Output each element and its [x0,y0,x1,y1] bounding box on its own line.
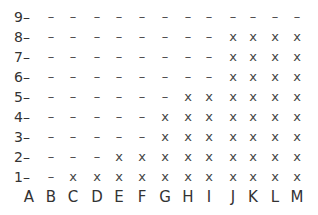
cell-dash-mark: – [155,69,175,85]
symbol-grid-chart: 9–––––––––––––8–––––––––xxxx7–––––––––xx… [0,0,318,215]
x-tick-label: B [40,188,62,206]
cell-x-mark: x [243,29,263,45]
cell-dash-mark: – [199,49,219,65]
cell-x-mark: x [287,29,307,45]
cell-dash-mark: – [63,89,83,105]
cell-x-mark: x [265,129,285,145]
cell-x-mark: x [243,109,263,125]
cell-x-mark: x [287,89,307,105]
cell-dash-mark: – [63,29,83,45]
x-tick-label: H [177,188,199,206]
cell-dash-mark: – [155,89,175,105]
cell-x-mark: x [223,149,243,165]
cell-x-mark: x [178,149,198,165]
cell-x-mark: x [223,129,243,145]
cell-dash-mark: – [41,9,61,25]
cell-dash-mark: – [87,29,107,45]
cell-dash-mark: – [63,109,83,125]
cell-x-mark: x [199,129,219,145]
cell-x-mark: x [265,69,285,85]
cell-dash-mark: – [63,9,83,25]
cell-x-mark: x [243,129,263,145]
cell-dash-mark: – [87,149,107,165]
cell-dash-mark: – [199,9,219,25]
cell-dash-mark: – [265,9,285,25]
y-tick-label: 1– [14,169,40,185]
cell-dash-mark: – [63,49,83,65]
cell-x-mark: x [287,69,307,85]
x-tick-label: L [264,188,286,206]
cell-dash-mark: – [63,149,83,165]
cell-dash-mark: – [41,169,61,185]
cell-dash-mark: – [223,9,243,25]
y-tick-label: 4– [14,109,40,125]
cell-x-mark: x [265,109,285,125]
cell-dash-mark: – [41,89,61,105]
cell-dash-mark: – [109,9,129,25]
cell-x-mark: x [287,109,307,125]
cell-dash-mark: – [109,129,129,145]
cell-x-mark: x [223,49,243,65]
cell-dash-mark: – [132,69,152,85]
cell-dash-mark: – [109,69,129,85]
cell-x-mark: x [223,169,243,185]
x-tick-label: M [286,188,308,206]
cell-x-mark: x [178,109,198,125]
y-tick-label: 6– [14,69,40,85]
cell-x-mark: x [265,49,285,65]
cell-dash-mark: – [109,109,129,125]
cell-dash-mark: – [87,9,107,25]
y-tick-label: 7– [14,49,40,65]
cell-dash-mark: – [132,29,152,45]
y-tick-label: 5– [14,89,40,105]
cell-dash-mark: – [109,49,129,65]
cell-dash-mark: – [132,109,152,125]
cell-dash-mark: – [63,129,83,145]
cell-dash-mark: – [178,69,198,85]
x-tick-label: I [198,188,220,206]
cell-x-mark: x [155,109,175,125]
y-tick-label: 3– [14,129,40,145]
cell-x-mark: x [155,129,175,145]
cell-dash-mark: – [41,149,61,165]
x-tick-label: A [18,188,40,206]
cell-dash-mark: – [87,89,107,105]
cell-dash-mark: – [178,49,198,65]
cell-dash-mark: – [41,129,61,145]
cell-x-mark: x [199,89,219,105]
cell-dash-mark: – [109,89,129,105]
cell-dash-mark: – [287,9,307,25]
cell-x-mark: x [243,169,263,185]
x-tick-label: J [222,188,244,206]
cell-x-mark: x [287,169,307,185]
cell-x-mark: x [199,169,219,185]
x-tick-label: G [154,188,176,206]
cell-x-mark: x [265,89,285,105]
cell-dash-mark: – [41,69,61,85]
cell-x-mark: x [199,109,219,125]
cell-dash-mark: – [155,9,175,25]
cell-dash-mark: – [132,89,152,105]
cell-x-mark: x [178,89,198,105]
cell-dash-mark: – [199,29,219,45]
cell-dash-mark: – [132,49,152,65]
cell-x-mark: x [109,169,129,185]
cell-x-mark: x [223,29,243,45]
cell-dash-mark: – [155,29,175,45]
cell-x-mark: x [109,149,129,165]
cell-x-mark: x [178,129,198,145]
cell-x-mark: x [223,109,243,125]
cell-x-mark: x [243,49,263,65]
y-tick-label: 8– [14,29,40,45]
cell-x-mark: x [155,149,175,165]
cell-x-mark: x [178,169,198,185]
x-tick-label: C [62,188,84,206]
cell-dash-mark: – [109,29,129,45]
cell-dash-mark: – [87,49,107,65]
cell-dash-mark: – [132,129,152,145]
cell-dash-mark: – [178,29,198,45]
cell-x-mark: x [287,149,307,165]
cell-dash-mark: – [199,69,219,85]
cell-dash-mark: – [87,69,107,85]
cell-dash-mark: – [41,109,61,125]
